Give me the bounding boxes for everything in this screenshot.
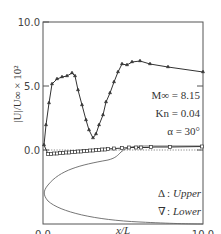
- x-tick-label-10: 10.0: [192, 229, 214, 234]
- alpha-annotation: α = 30°: [167, 125, 200, 137]
- y-tick-label-10: 10.0: [18, 17, 40, 28]
- x-tick-label-0: 0.0: [35, 229, 51, 234]
- legend-lower-marker: ∇: [158, 205, 166, 217]
- y-tick-label-0: 0.0: [24, 145, 40, 156]
- legend-lower-label: Lower: [172, 205, 202, 217]
- legend-upper-marker: Δ: [158, 187, 165, 199]
- legend-upper-sep: :: [167, 187, 170, 199]
- y-tick-label-5: 5.0: [24, 81, 40, 92]
- x-axis-label: x/L: [115, 224, 130, 234]
- chart: 10.0 5.0 0.0 0.0 10.0 x/L |U|/U∞ × 10²: [0, 0, 221, 234]
- knudsen-annotation: Kn = 0.04: [156, 107, 201, 119]
- legend-lower-sep: :: [167, 205, 170, 217]
- mach-annotation: M∞ = 8.15: [151, 89, 200, 101]
- legend: Δ : Upper ∇ : Lower: [158, 187, 202, 217]
- legend-upper-label: Upper: [173, 187, 202, 199]
- y-axis-label: |U|/U∞ × 10²: [11, 65, 23, 123]
